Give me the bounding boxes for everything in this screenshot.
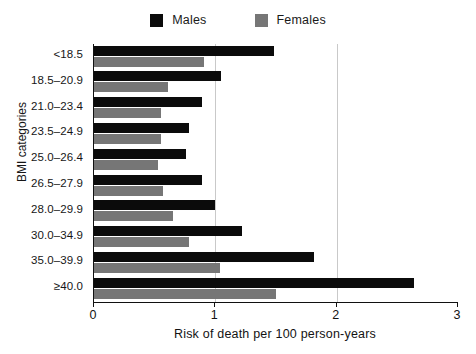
legend-entry-females: Females — [255, 13, 326, 27]
y-axis-category-label: 21.0–23.4 — [0, 100, 89, 112]
legend-label: Females — [277, 13, 326, 27]
x-axis-title: Risk of death per 100 person-years — [93, 327, 457, 341]
chart-legend: MalesFemales — [0, 8, 476, 32]
y-axis-category-label: ≥40.0 — [0, 280, 89, 292]
bar-males — [94, 123, 189, 133]
legend-swatch-males — [150, 14, 163, 27]
x-tick-mark-0 — [93, 303, 94, 307]
bar-males — [94, 71, 221, 81]
bar-females — [94, 82, 168, 92]
y-axis-category-label: 25.0–26.4 — [0, 151, 89, 163]
bar-males — [94, 97, 202, 107]
y-axis-category-label: <18.5 — [0, 48, 89, 60]
x-tick-label: 0 — [90, 308, 97, 322]
bar-row — [94, 226, 458, 252]
x-tick-label: 3 — [454, 308, 461, 322]
x-tick-mark-2 — [336, 303, 337, 307]
bar-males — [94, 46, 274, 56]
x-axis-ticks: 0123 — [93, 303, 457, 323]
x-tick-mark-3 — [457, 303, 458, 307]
bar-females — [94, 160, 158, 170]
bmi-mortality-bar-chart: MalesFemales BMI categories <18.518.5–20… — [0, 0, 476, 354]
bar-row — [94, 71, 458, 97]
legend-label: Males — [172, 13, 206, 27]
bar-males — [94, 200, 215, 210]
x-tick-label: 1 — [211, 308, 218, 322]
y-axis-category-label: 23.5–24.9 — [0, 125, 89, 137]
bar-row — [94, 200, 458, 226]
legend-swatch-females — [255, 14, 268, 27]
plot-area — [93, 44, 458, 303]
y-axis-category-label: 18.5–20.9 — [0, 74, 89, 86]
bar-row — [94, 175, 458, 201]
bar-males — [94, 252, 314, 262]
bar-females — [94, 57, 204, 67]
bar-males — [94, 278, 414, 288]
y-axis-category-label: 26.5–27.9 — [0, 177, 89, 189]
x-tick-label: 2 — [332, 308, 339, 322]
bar-females — [94, 211, 173, 221]
bar-males — [94, 175, 202, 185]
bar-females — [94, 263, 220, 273]
x-tick-mark-1 — [214, 303, 215, 307]
bar-males — [94, 226, 242, 236]
y-axis-category-label: 35.0–39.9 — [0, 254, 89, 266]
bar-row — [94, 123, 458, 149]
bar-males — [94, 149, 186, 159]
bar-row — [94, 46, 458, 72]
bar-females — [94, 289, 276, 299]
bar-row — [94, 97, 458, 123]
bar-females — [94, 134, 161, 144]
bar-row — [94, 252, 458, 278]
bar-row — [94, 149, 458, 175]
legend-entry-males: Males — [150, 13, 206, 27]
bar-females — [94, 108, 161, 118]
y-axis-category-labels: <18.518.5–20.921.0–23.423.5–24.925.0–26.… — [0, 44, 89, 302]
bar-row — [94, 278, 458, 304]
bar-females — [94, 237, 189, 247]
bar-rows — [94, 44, 458, 302]
bar-females — [94, 186, 163, 196]
y-axis-category-label: 28.0–29.9 — [0, 203, 89, 215]
y-axis-category-label: 30.0–34.9 — [0, 229, 89, 241]
